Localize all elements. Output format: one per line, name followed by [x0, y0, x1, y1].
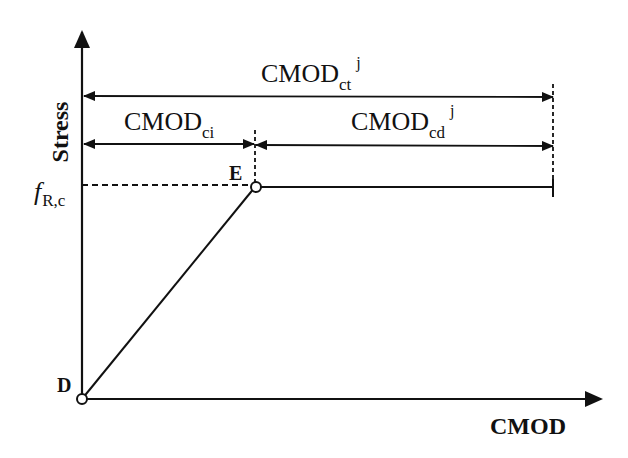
label-cmod-cd: CMODcdj — [351, 102, 455, 142]
label-f-rc: fR,c — [34, 177, 66, 210]
stress-cmod-diagram: Stress CMOD CMODctj CMODci CMODcdj fR,c … — [0, 0, 628, 458]
dimension-arrow-delta — [256, 145, 553, 146]
label-cmod-ci: CMODci — [124, 107, 215, 142]
point-d-marker — [77, 394, 87, 404]
label-point-d: D — [57, 374, 71, 396]
dimension-arrow-total — [84, 96, 553, 97]
label-point-e: E — [229, 162, 242, 184]
x-axis-label: CMOD — [490, 413, 566, 439]
y-axis-label: Stress — [47, 102, 73, 163]
point-e-marker — [251, 182, 261, 192]
elastic-segment — [82, 187, 255, 399]
label-cmod-ct: CMODctj — [261, 54, 361, 94]
